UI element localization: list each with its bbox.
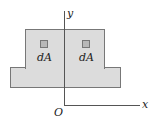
x-axis-label: x — [142, 99, 148, 110]
area-element-left — [40, 40, 48, 48]
area-element-right — [82, 40, 90, 48]
y-axis — [64, 11, 65, 106]
cross-section-flange — [10, 67, 121, 88]
x-axis — [64, 105, 140, 106]
area-element-label: dA — [79, 52, 94, 63]
area-element-label: dA — [37, 52, 52, 63]
origin-label: O — [54, 107, 63, 118]
y-axis-label: y — [67, 8, 73, 19]
